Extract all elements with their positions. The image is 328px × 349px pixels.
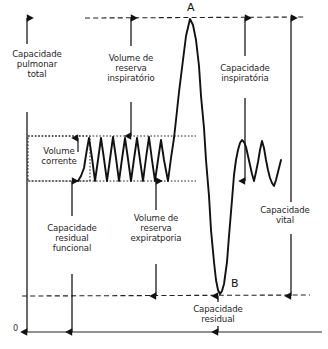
marker-point-a: A [187,2,195,13]
marker-point-b: B [231,278,239,289]
label-tidal-volume: Volume corrente [31,147,87,167]
label-functional-residual-capacity: Capacidade residual funcional [26,224,118,254]
label-residual-capacity: Capacidade residual [172,305,264,325]
label-total-lung-capacity: Capacidade pulmonar total [0,50,84,80]
label-inspiratory-capacity: Capacidade inspiratória [200,64,290,84]
reference-line-residual-capacity [22,295,310,296]
spirogram-figure: Capacidade pulmonar total Volume de rese… [0,0,328,349]
label-inspiratory-reserve-volume: Volume de reserva inspiratório [85,54,177,84]
axis-origin-label: 0 [13,324,18,332]
label-expiratory-reserve-volume: Volume de reserva expiratporia [110,214,202,244]
reference-line-total-lung-capacity [85,17,305,18]
label-vital-capacity: Capacidade vital [247,206,323,226]
